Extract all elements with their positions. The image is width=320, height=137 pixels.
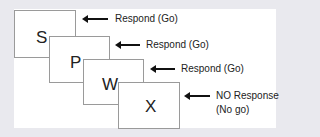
response-label-p: Respond (Go) <box>146 39 209 51</box>
stimulus-letter-w: W <box>102 76 118 93</box>
arrow-left-icon <box>188 95 210 97</box>
stimulus-letter-s: S <box>36 29 47 46</box>
response-label-s: Respond (Go) <box>115 13 178 25</box>
stimulus-letter-x: X <box>145 98 156 115</box>
stimulus-box-x: X <box>118 82 180 129</box>
response-label-x-line1: NO Response <box>216 90 279 102</box>
stimulus-letter-p: P <box>70 54 81 71</box>
response-label-x-line2: (No go) <box>216 104 249 116</box>
arrow-left-icon <box>86 18 108 20</box>
response-label-w: Respond (Go) <box>181 63 244 75</box>
arrow-left-icon <box>119 44 140 46</box>
arrow-left-icon <box>154 68 175 70</box>
